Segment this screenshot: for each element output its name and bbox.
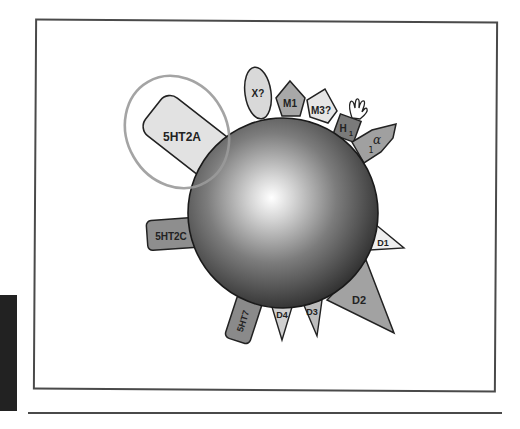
label-d4: D4 <box>276 310 288 320</box>
receptor-d4: D4 <box>272 307 292 340</box>
receptor-diagram: 5HT2A X? M1 M3? H 1 α 1 5HT2C D1 <box>0 0 520 429</box>
receptor-m3: M3? <box>307 89 337 123</box>
label-alpha1-sub: 1 <box>368 146 373 155</box>
label-h1-sub: 1 <box>349 130 353 137</box>
receptor-m1: M1 <box>276 81 305 116</box>
label-m3: M3? <box>311 105 331 116</box>
label-d2: D2 <box>352 294 366 306</box>
central-sphere <box>188 118 378 308</box>
receptor-x: X? <box>242 65 275 120</box>
label-d1: D1 <box>377 238 389 248</box>
label-5ht2a: 5HT2A <box>163 130 201 144</box>
label-h1-main: H <box>339 123 346 134</box>
label-x: X? <box>252 88 265 99</box>
label-d3: D3 <box>306 307 318 317</box>
hand-icon <box>350 99 368 119</box>
label-m1: M1 <box>283 98 297 109</box>
label-alpha1-main: α <box>373 133 381 147</box>
label-5ht2c: 5HT2C <box>155 231 187 242</box>
